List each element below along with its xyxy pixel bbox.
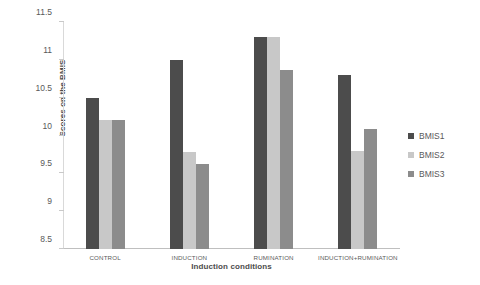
- y-tick-label: 9: [47, 196, 52, 206]
- legend-item-bmis2[interactable]: BMIS2: [408, 145, 478, 164]
- y-tick: 9.5: [59, 172, 64, 173]
- legend-label: BMIS2: [419, 150, 445, 160]
- y-tick: 10: [59, 135, 64, 136]
- bar-bmis2-control[interactable]: [99, 120, 112, 249]
- legend-item-bmis1[interactable]: BMIS1: [408, 126, 478, 145]
- y-tick-label: 9.5: [40, 158, 52, 168]
- legend-swatch-icon: [408, 133, 414, 139]
- bar-group: [86, 22, 125, 249]
- chart-legend: BMIS1BMIS2BMIS3: [408, 126, 478, 183]
- y-tick: 8.5: [59, 248, 64, 249]
- bar-bmis2-induction[interactable]: [183, 152, 196, 249]
- legend-swatch-icon: [408, 152, 414, 158]
- x-tick-label: RUMINATION: [254, 254, 294, 261]
- legend-label: BMIS1: [419, 131, 445, 141]
- bar-bmis3-induction[interactable]: [196, 164, 209, 250]
- y-tick: 10.5: [59, 97, 64, 98]
- legend-label: BMIS3: [419, 169, 445, 179]
- x-tick-label: INDUCTION+RUMINATION: [318, 254, 398, 261]
- bar-bmis2-induction-rumination[interactable]: [351, 151, 364, 249]
- bar-chart-figure: Scores on the BMIS 8.599.51010.51111.5 C…: [0, 0, 480, 285]
- x-tick-label: CONTROL: [89, 254, 120, 261]
- bar-bmis3-control[interactable]: [112, 120, 125, 249]
- bar-bmis2-rumination[interactable]: [267, 37, 280, 249]
- bar-group: [254, 22, 293, 249]
- y-tick-label: 11.5: [36, 7, 52, 17]
- y-axis-line: [63, 22, 64, 249]
- y-tick: 11: [59, 59, 64, 60]
- bar-bmis3-induction-rumination[interactable]: [364, 129, 377, 249]
- y-tick-label: 10: [43, 121, 52, 131]
- legend-item-bmis3[interactable]: BMIS3: [408, 164, 478, 183]
- x-tick-label: INDUCTION: [172, 254, 208, 261]
- bar-group: [338, 22, 377, 249]
- bar-bmis1-control[interactable]: [86, 98, 99, 249]
- legend-swatch-icon: [408, 171, 414, 177]
- plot-area: 8.599.51010.51111.5 CONTROLINDUCTIONRUMI…: [63, 22, 400, 249]
- y-tick-label: 11: [43, 45, 52, 55]
- bar-bmis3-rumination[interactable]: [280, 70, 293, 249]
- bar-group: [170, 22, 209, 249]
- y-tick: 9: [59, 210, 64, 211]
- bar-bmis1-induction[interactable]: [170, 60, 183, 249]
- y-tick-label: 8.5: [40, 234, 52, 244]
- y-tick: 11.5: [59, 21, 64, 22]
- y-tick-label: 10.5: [35, 83, 52, 93]
- bar-bmis1-rumination[interactable]: [254, 37, 267, 249]
- bar-bmis1-induction-rumination[interactable]: [338, 75, 351, 249]
- x-axis-title: Induction conditions: [63, 262, 400, 271]
